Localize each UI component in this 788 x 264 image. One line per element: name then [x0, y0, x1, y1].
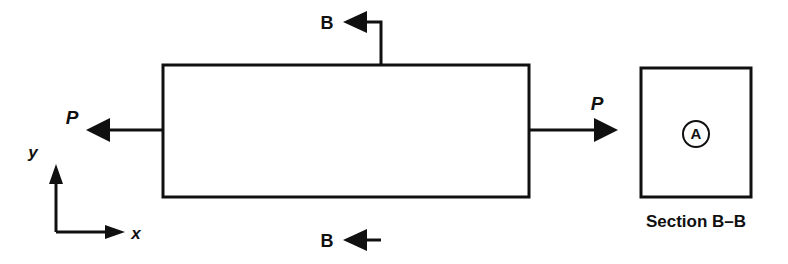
engineering-diagram: P P B B x y [0, 0, 788, 264]
section-cut-bottom-arrowhead [343, 229, 367, 251]
section-cut-top-arrow [343, 11, 381, 65]
y-axis-arrowhead [49, 164, 63, 184]
section-cut-top-label: B [321, 13, 334, 33]
load-left-label: P [66, 107, 79, 128]
load-right-label: P [591, 93, 604, 114]
x-axis-arrowhead [105, 225, 125, 239]
section-cut-bottom-arrow [343, 229, 381, 251]
y-axis-label: y [27, 143, 39, 162]
section-cut-top-arrowhead [343, 11, 367, 33]
load-arrow-left [86, 118, 163, 142]
point-a-marker: A [683, 121, 709, 147]
prismatic-bar-outline [163, 65, 529, 197]
section-cut-bottom-label: B [321, 231, 334, 251]
load-left-arrowhead [86, 118, 110, 142]
diagram-canvas: P P B B x y [0, 0, 788, 264]
section-cut-top-leader [367, 22, 381, 65]
point-a-label: A [691, 125, 702, 142]
coordinate-axes [49, 164, 125, 239]
load-arrow-right [529, 118, 618, 142]
section-view-caption: Section B–B [646, 212, 746, 231]
load-right-arrowhead [594, 118, 618, 142]
x-axis-label: x [130, 224, 142, 243]
